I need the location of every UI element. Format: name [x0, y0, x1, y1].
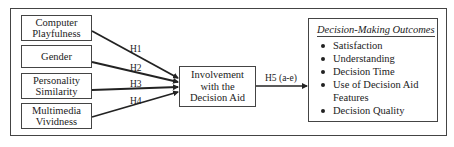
label-h1: H1	[130, 44, 142, 54]
outcome-item-decision-time: Decision Time	[319, 65, 438, 78]
label-personality-similarity: Personality Similarity	[22, 75, 91, 98]
box-personality-similarity: Personality Similarity	[21, 73, 92, 99]
outcome-item-satisfaction: Satisfaction	[319, 39, 438, 52]
label-multimedia-vividness: Multimedia Vividness	[22, 105, 91, 128]
label-gender: Gender	[41, 51, 72, 63]
box-multimedia-vividness: Multimedia Vividness	[21, 103, 92, 129]
outcome-item-use-of-features: Use of Decision Aid Features	[319, 78, 438, 104]
label-h2: H2	[130, 63, 142, 73]
label-involvement: Involvement with the Decision Aid	[184, 69, 251, 104]
label-h4: H4	[130, 96, 142, 106]
outcomes-list: Satisfaction Understanding Decision Time…	[319, 39, 438, 117]
box-computer-playfulness: Computer Playfulness	[21, 15, 92, 41]
box-gender: Gender	[21, 45, 92, 68]
box-decision-making-outcomes: Decision-Making Outcomes Satisfaction Un…	[308, 18, 438, 122]
outcome-item-decision-quality: Decision Quality	[319, 104, 438, 117]
box-involvement: Involvement with the Decision Aid	[179, 66, 256, 107]
outcomes-title: Decision-Making Outcomes	[317, 24, 435, 37]
label-computer-playfulness: Computer Playfulness	[22, 17, 91, 40]
label-h5: H5 (a-e)	[265, 73, 297, 83]
label-h3: H3	[130, 79, 142, 89]
outcome-item-understanding: Understanding	[319, 52, 438, 65]
